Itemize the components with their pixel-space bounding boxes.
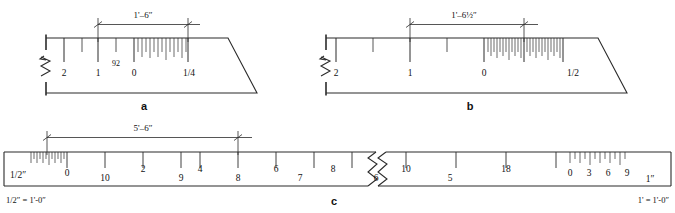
scale-c-right-end-label: 1″ — [646, 174, 655, 184]
scale-b-tick-label-half: 1/2 — [567, 68, 579, 78]
scale-b-caption: b — [467, 100, 474, 112]
diagram-canvas: 1'–6″ — [0, 0, 675, 213]
scale-c-upper-label-18: 18 — [501, 164, 511, 174]
scale-c-upper-label-10: 10 — [401, 164, 411, 174]
scale-c-dimension: 5'–6″ — [43, 123, 252, 155]
scale-c-group: 5'–6″ — [4, 123, 671, 207]
scale-c-left-end-label: 1/2″ — [10, 170, 26, 180]
scale-c-upper-label-8: 8 — [331, 164, 336, 174]
scale-a-body — [40, 35, 257, 96]
scale-a-tick-label-1: 1 — [96, 68, 101, 78]
scale-c-lower-label-8: 8 — [236, 173, 241, 183]
scale-a-caption: a — [141, 100, 148, 112]
scale-c-right-major-ticks — [406, 152, 556, 168]
scale-c-dimension-label: 5'–6″ — [134, 123, 153, 133]
scale-c-lower-label-6: 6 — [374, 173, 379, 183]
scale-a-extra-label-92: 92 — [112, 59, 120, 68]
scale-c-lower-label-9: 9 — [179, 173, 184, 183]
scale-c-caption: c — [331, 195, 337, 207]
scale-a-tick-label-quarter: 1/4 — [183, 68, 195, 78]
scale-a-dimension: 1'–6″ — [94, 10, 200, 42]
scale-c-right-label-0: 0 — [568, 168, 573, 178]
scale-a-major-ticks — [64, 38, 188, 62]
scale-c-lower-label-7: 7 — [298, 173, 303, 183]
scale-c-right-note: 1' = 1'-0″ — [638, 195, 670, 205]
scale-a-fine-ticks — [138, 38, 186, 60]
scale-c-left-major-ticks — [67, 152, 352, 168]
scale-c-lower-label-10: 10 — [100, 173, 110, 183]
scale-b-major-ticks — [336, 38, 563, 62]
scale-c-left-note: 1/2″ = 1'-0″ — [6, 195, 46, 205]
scale-c-right-fine-ticks — [570, 152, 625, 165]
scale-c-lower-label-5: 5 — [448, 173, 453, 183]
scale-a-group: 1'–6″ — [40, 10, 257, 112]
scale-c-upper-label-6: 6 — [274, 164, 279, 174]
scale-c-right-label-9: 9 — [625, 168, 630, 178]
scale-a-tick-label-0: 0 — [132, 68, 137, 78]
scale-c-upper-label-4: 4 — [198, 164, 203, 174]
scale-b-tick-label-0: 0 — [482, 68, 487, 78]
scale-b-tick-label-1: 1 — [408, 68, 413, 78]
scale-c-left-fine-ticks — [31, 152, 64, 165]
scale-b-tick-label-2: 2 — [334, 68, 339, 78]
scale-b-body — [320, 35, 627, 96]
scale-a-dimension-label: 1'–6″ — [134, 10, 153, 20]
scale-c-right-label-3: 3 — [587, 168, 592, 178]
scale-c-body-left — [4, 152, 387, 186]
scale-b-dimension-label: 1'–6½″ — [451, 10, 477, 20]
scale-c-upper-label-2: 2 — [141, 164, 146, 174]
scale-a-tick-label-2: 2 — [62, 68, 67, 78]
scale-b-dimension: 1'–6½″ — [406, 10, 538, 42]
scale-c-upper-label-0: 0 — [65, 168, 70, 178]
scale-c-right-label-6: 6 — [606, 168, 611, 178]
scale-b-group: 1'–6½″ — [320, 10, 627, 112]
